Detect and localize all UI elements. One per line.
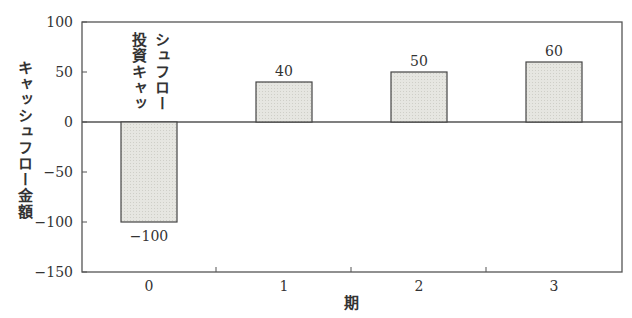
- y-axis-label-text: キャッシュフロー金額: [14, 60, 35, 220]
- y-tick-label: 50: [55, 64, 73, 80]
- bars: −100405060: [121, 43, 582, 244]
- bar-value-label: −100: [130, 228, 168, 244]
- annotation-investment-cashflow: シュフロー 投資キャッ: [128, 32, 172, 112]
- cash-flow-bar-chart: 100500−50−100−150 −100405060 0123期: [0, 0, 632, 318]
- x-tick-label: 2: [415, 278, 424, 294]
- x-axis-ticks: 0123期: [145, 267, 559, 312]
- y-axis-ticks: 100500−50−100−150: [35, 14, 87, 280]
- x-tick-label: 1: [280, 278, 289, 294]
- bar-value-label: 40: [275, 63, 293, 79]
- y-tick-label: −50: [43, 164, 73, 180]
- bar-value-label: 60: [545, 43, 563, 59]
- bar-period-1: [256, 82, 312, 122]
- x-tick-label: 0: [145, 278, 154, 294]
- bar-period-0: [121, 122, 177, 222]
- x-tick-label: 3: [550, 278, 559, 294]
- bar-period-3: [526, 62, 582, 122]
- bar-period-2: [391, 72, 447, 122]
- annotation-line-1: シュフロー: [151, 32, 172, 112]
- y-tick-label: 0: [64, 114, 73, 130]
- annotation-line-2: 投資キャッ: [128, 32, 149, 112]
- bar-value-label: 50: [410, 53, 428, 69]
- y-tick-label: 100: [46, 14, 73, 30]
- x-axis-label: 期: [344, 294, 359, 312]
- y-tick-label: −100: [35, 214, 73, 230]
- y-tick-label: −150: [35, 264, 73, 280]
- y-axis-label: キャッシュフロー金額: [14, 60, 36, 224]
